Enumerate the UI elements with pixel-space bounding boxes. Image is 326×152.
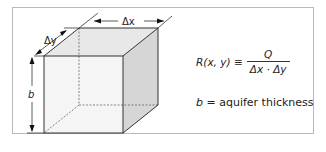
- equation-lhs: R(x, y) ≡: [196, 56, 243, 68]
- cube-front-face: [44, 56, 123, 133]
- equation-fraction: Q Δx · Δy: [247, 48, 290, 75]
- recharge-equation: R(x, y) ≡ Q Δx · Δy: [196, 48, 290, 75]
- equation-denominator: Δx · Δy: [247, 61, 290, 75]
- cube-diagram: Δx Δy b: [0, 0, 326, 152]
- thickness-definition: b = aquifer thickness: [196, 96, 314, 109]
- definition-text: = aquifer thickness: [203, 96, 314, 109]
- b-label: b: [28, 89, 34, 100]
- equation-numerator: Q: [262, 48, 274, 61]
- definition-symbol: b: [196, 96, 203, 109]
- dy-label: Δy: [44, 35, 57, 46]
- dx-label: Δx: [122, 16, 135, 27]
